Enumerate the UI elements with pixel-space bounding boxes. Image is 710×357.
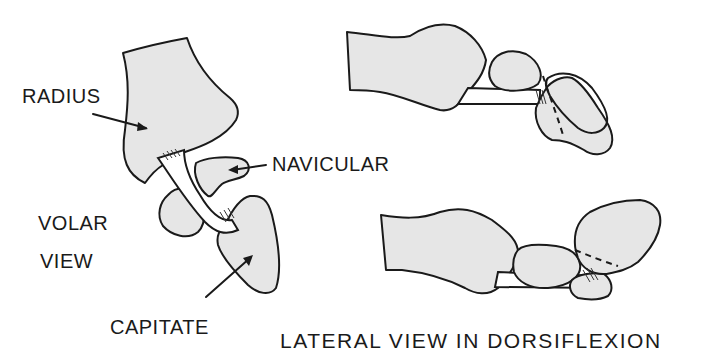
radius-label: RADIUS (22, 86, 101, 106)
capitate-label: CAPITATE (110, 317, 209, 337)
navicular-bone (195, 157, 249, 196)
volar-view-title-line2: VIEW (40, 251, 93, 271)
lateral-view-caption: LATERAL VIEW IN DORSIFLEXION (280, 330, 662, 351)
navicular-label: NAVICULAR (272, 154, 390, 174)
small-bone-lateral-lower (570, 273, 611, 299)
volar-view-title-line1: VOLAR (38, 213, 108, 233)
lateral-view-upper-drawing (347, 24, 612, 154)
diagram-drawing (0, 0, 710, 357)
capitate-lateral-lower (575, 200, 660, 274)
volar-view-drawing (93, 38, 279, 297)
lunate-lateral-upper (489, 51, 540, 91)
ligament-lateral-upper (458, 88, 540, 104)
lateral-view-lower-drawing (381, 200, 660, 299)
wrist-ligament-diagram: RADIUS NAVICULAR VOLAR VIEW CAPITATE LAT… (0, 0, 710, 357)
